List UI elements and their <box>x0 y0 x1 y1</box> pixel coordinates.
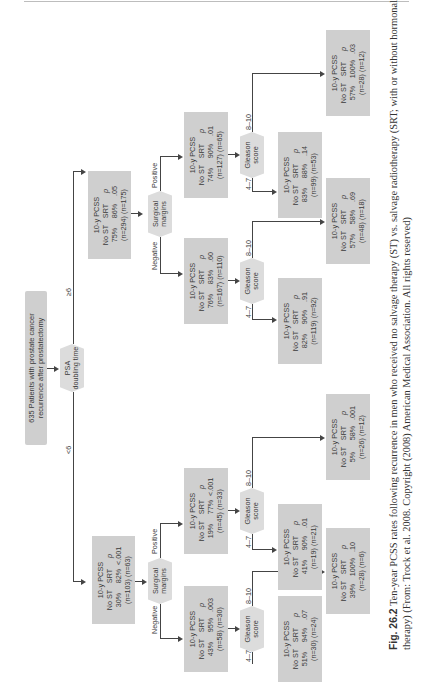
node-title: 10-y PCSS <box>330 419 339 456</box>
value-srt: 90% <box>300 532 309 554</box>
value-nost: 5% <box>348 444 357 470</box>
col-srt: SRT <box>291 306 300 328</box>
node-title: 10-y PCSS <box>330 553 339 590</box>
col-p: p <box>339 188 348 206</box>
split-psa-doubling-time: PSA doubling time <box>60 344 84 392</box>
n-srt: (n=92) <box>309 297 318 318</box>
value-srt: 90% <box>300 306 309 328</box>
branch-label-negative: Negative <box>150 242 159 270</box>
value-srt: 95% <box>206 614 215 636</box>
n-nost: (n=26) <box>357 438 366 459</box>
col-srt: SRT <box>291 532 300 554</box>
node-psa-ge6: 10-y PCSS No ST SRT p 75% 86% .05 (n=294… <box>88 171 131 259</box>
split-surgical-margins-ge6: Surgical margins <box>148 191 172 237</box>
col-srt: SRT <box>101 200 110 222</box>
branch-label-lt6: <6 <box>64 446 73 454</box>
value-p: .003 <box>206 596 215 614</box>
value-nost: 41% <box>300 554 309 580</box>
col-nost: No ST <box>291 328 300 354</box>
col-srt: SRT <box>197 266 206 288</box>
n-srt: (n=63) <box>123 556 132 577</box>
value-srt: 100% <box>348 58 357 80</box>
col-srt: SRT <box>339 422 348 444</box>
value-p: <.001 <box>114 547 123 565</box>
arrow-icon <box>235 278 240 284</box>
n-nost: (n=28) <box>357 74 366 95</box>
n-srt: (n=6) <box>357 551 366 568</box>
node-lt6-pos-gleason-4-7: 10-y PCSS No ST SRT p 41% 90% .01 (n=19)… <box>278 504 322 590</box>
arrow-icon <box>54 366 59 372</box>
value-p: .01 <box>206 122 215 140</box>
arrow-icon <box>235 508 240 514</box>
col-p: p <box>339 40 348 58</box>
node-ge6-positive: 10-y PCSS No ST SRT p 74% 90% .01 (n=127… <box>184 112 228 198</box>
arrow-icon <box>272 317 277 323</box>
col-nost: No ST <box>291 182 300 208</box>
connector <box>160 157 161 191</box>
value-p: .03 <box>348 40 357 58</box>
col-srt: SRT <box>339 206 348 228</box>
arrow-icon <box>320 435 325 441</box>
connector <box>252 549 274 550</box>
value-srt: 88% <box>300 160 309 182</box>
connector <box>252 319 274 320</box>
n-srt: (n=12) <box>357 415 366 436</box>
arrow-icon <box>178 154 183 160</box>
col-p: p <box>197 248 206 266</box>
n-nost: (n=28) <box>357 570 366 591</box>
split-gleason-ge6-pos: Gleason score <box>240 132 264 178</box>
connector <box>160 273 180 274</box>
value-p: .69 <box>348 188 357 206</box>
col-srt: SRT <box>197 614 206 636</box>
n-srt: (n=33) <box>215 489 224 510</box>
arrow-icon <box>138 211 143 217</box>
value-nost: 83% <box>300 182 309 208</box>
node-ge6-pos-gleason-4-7: 10-y PCSS No ST SRT p 83% 88% .14 (n=99)… <box>278 132 322 218</box>
branch-label-ge6: ≥6 <box>64 288 73 296</box>
n-nost: (n=19) <box>309 548 318 569</box>
col-nost: No ST <box>339 578 348 604</box>
node-title: 10-y PCSS <box>282 621 291 658</box>
col-p: p <box>197 122 206 140</box>
node-title: 10-y PCSS <box>330 203 339 240</box>
value-p: .60 <box>206 248 215 266</box>
value-nost: 82% <box>300 328 309 354</box>
col-nost: No ST <box>101 222 110 248</box>
arrow-icon <box>81 579 86 585</box>
value-srt: 58% <box>348 422 357 444</box>
branch-label-gleason-low: 4–7 <box>244 650 253 662</box>
node-lt6-negative: 10-y PCSS No ST SRT p 43% 95% .003 (n=58… <box>184 586 228 672</box>
n-srt: (n=18) <box>357 199 366 220</box>
value-nost: 74% <box>206 162 215 188</box>
node-title: 10-y PCSS <box>282 529 291 566</box>
value-srt: 94% <box>300 624 309 646</box>
figure-caption: Fig. 26.2 Ten-year PCSS rates following … <box>388 0 413 654</box>
connector <box>160 237 161 274</box>
arrow-icon <box>272 547 277 553</box>
connector <box>160 604 161 639</box>
col-p: p <box>291 288 300 306</box>
value-p: .01 <box>300 514 309 532</box>
value-srt: 90% <box>206 140 215 162</box>
value-nost: 30% <box>114 587 123 613</box>
value-srt: 58% <box>348 206 357 228</box>
root-node: 635 Patients with prostate cancer recurr… <box>25 291 47 445</box>
split-line2: score <box>252 502 261 520</box>
n-srt: (n=53) <box>309 153 318 174</box>
root-line-1: 635 Patients with prostate cancer <box>27 291 36 445</box>
node-title: 10-y PCSS <box>96 562 105 599</box>
node-lt6-positive: 10-y PCSS No ST SRT p 19% 77% <.001 (n=4… <box>184 468 228 554</box>
col-nost: No ST <box>339 228 348 254</box>
value-p: .07 <box>300 606 309 624</box>
figure-label: Fig. 26.2 <box>388 608 399 650</box>
connector <box>252 221 322 222</box>
col-p: p <box>105 547 114 565</box>
value-p: <.001 <box>206 478 215 496</box>
arrow-icon <box>81 169 86 175</box>
value-srt: 77% <box>206 496 215 518</box>
col-nost: No ST <box>339 80 348 106</box>
value-srt: 82% <box>114 565 123 587</box>
split-line2: margins <box>160 568 169 594</box>
col-nost: No ST <box>197 518 206 544</box>
node-title: 10-y PCSS <box>92 197 101 234</box>
